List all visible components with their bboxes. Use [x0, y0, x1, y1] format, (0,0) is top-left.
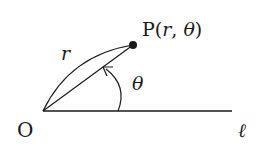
radius-label: r: [61, 42, 72, 64]
initial-line-label: ℓ: [238, 119, 246, 141]
angle-arc: [106, 69, 121, 111]
angle-label: θ: [132, 72, 144, 94]
polar-coordinate-diagram: P(r, θ) r θ O ℓ: [0, 0, 258, 156]
point-label: P(r, θ): [142, 18, 202, 40]
segment-op: [43, 45, 133, 111]
point-p: [129, 41, 137, 49]
origin-label: O: [17, 118, 33, 142]
